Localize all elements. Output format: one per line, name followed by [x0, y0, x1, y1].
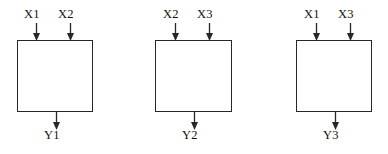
process-box-2 [155, 40, 232, 112]
input-arrow-x2-block1 [66, 23, 75, 41]
input-label-x3-block2: X3 [197, 8, 213, 21]
input-label-x2-block1: X2 [58, 8, 74, 21]
input-arrow-x3-block2 [205, 23, 214, 41]
process-box-3 [296, 40, 372, 112]
input-arrow-x2-block2 [171, 23, 180, 41]
process-box-1 [17, 40, 93, 112]
output-label-y2-block2: Y2 [182, 129, 198, 142]
input-label-x2-block2: X2 [163, 8, 179, 21]
output-label-y3-block3: Y3 [323, 129, 339, 142]
input-label-x3-block3: X3 [338, 8, 354, 21]
diagram-canvas: X1 X2 Y1 X2 X3 [0, 0, 388, 154]
input-arrow-x1-block1 [32, 23, 41, 41]
input-arrow-x3-block3 [346, 23, 355, 41]
output-label-y1-block1: Y1 [44, 129, 60, 142]
input-label-x1-block1: X1 [24, 8, 40, 21]
input-arrow-x1-block3 [312, 23, 321, 41]
input-label-x1-block3: X1 [304, 8, 320, 21]
